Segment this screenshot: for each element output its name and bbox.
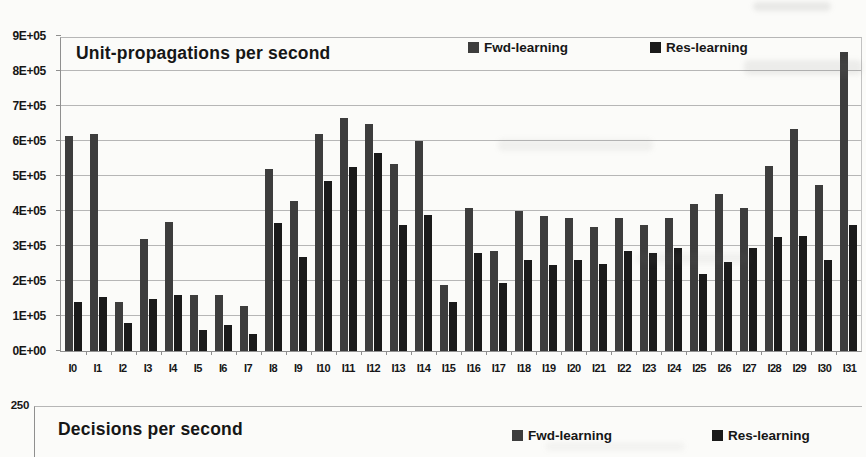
bar-res-I20 <box>574 260 582 351</box>
x-axis-label-I30: I30 <box>812 362 837 374</box>
x-axis-label-I16: I16 <box>461 362 486 374</box>
bar-fwd-I9 <box>290 201 298 352</box>
y-axis-tick <box>56 35 61 36</box>
x-axis-label-I27: I27 <box>737 362 762 374</box>
x-axis-label-I11: I11 <box>336 362 361 374</box>
x-axis-tick <box>336 351 337 355</box>
x-axis-tick <box>211 351 212 355</box>
y-axis: 0E+001E+052E+053E+054E+055E+056E+057E+05… <box>0 37 52 352</box>
x-axis-tick <box>111 351 112 355</box>
gridline <box>61 70 861 71</box>
scanned-figure-page: { "chart_data": [ { "type": "bar", "titl… <box>0 0 866 457</box>
bar-res-I23 <box>649 253 657 351</box>
x-axis-tick <box>136 351 137 355</box>
legend-label-res-learning: Res-learning <box>666 40 748 55</box>
bar-fwd-I3 <box>140 239 148 351</box>
bar-fwd-I10 <box>315 134 323 351</box>
x-axis-tick <box>361 351 362 355</box>
x-axis-tick <box>836 351 837 355</box>
bar-fwd-I27 <box>740 208 748 352</box>
x-axis-tick <box>611 351 612 355</box>
scan-artifact <box>753 2 831 11</box>
x-axis-label-I21: I21 <box>586 362 611 374</box>
bar-fwd-I8 <box>265 169 273 351</box>
y-axis-label: 2E+05 <box>0 275 46 288</box>
legend-item-res-learning-2: Res-learning <box>712 428 810 443</box>
x-axis-tick <box>686 351 687 355</box>
legend-item-fwd-learning-2: Fwd-learning <box>512 428 612 443</box>
legend-label-fwd-learning: Fwd-learning <box>484 40 568 55</box>
bar-res-I4 <box>174 295 182 351</box>
bar-res-I19 <box>549 265 557 351</box>
bar-fwd-I16 <box>465 208 473 352</box>
bar-res-I26 <box>724 262 732 351</box>
bar-res-I7 <box>249 334 257 352</box>
x-axis-label-I6: I6 <box>210 362 235 374</box>
bar-fwd-I12 <box>365 124 373 352</box>
bar-fwd-I21 <box>590 227 598 351</box>
bar-fwd-I31 <box>840 52 848 351</box>
x-axis-tick <box>436 351 437 355</box>
bar-res-I13 <box>399 225 407 351</box>
chart-title-unit-propagations: Unit-propagations per second <box>76 43 331 64</box>
x-axis-tick <box>486 351 487 355</box>
x-axis-label-I10: I10 <box>311 362 336 374</box>
legend-label-res-learning-2: Res-learning <box>728 428 810 443</box>
y-axis-label: 3E+05 <box>0 240 46 253</box>
legend-item-res-learning: Res-learning <box>650 40 748 55</box>
x-axis-label-I4: I4 <box>160 362 185 374</box>
fwd-learning-swatch-icon-2 <box>512 430 523 441</box>
bar-res-I27 <box>749 248 757 351</box>
bar-res-I8 <box>274 223 282 351</box>
bar-fwd-I20 <box>565 218 573 351</box>
bar-fwd-I18 <box>515 211 523 351</box>
bar-fwd-I5 <box>190 295 198 351</box>
x-axis-tick <box>736 351 737 355</box>
bar-fwd-I4 <box>165 222 173 352</box>
y-axis-tick <box>56 315 61 316</box>
bar-res-I9 <box>299 257 307 352</box>
x-axis-label-I1: I1 <box>85 362 110 374</box>
bar-res-I3 <box>149 299 157 352</box>
y-axis-tick <box>56 140 61 141</box>
x-axis-tick <box>636 351 637 355</box>
bar-fwd-I26 <box>715 194 723 352</box>
x-axis-tick <box>511 351 512 355</box>
decisions-y-axis-label: 250 <box>0 399 29 411</box>
bar-res-I18 <box>524 260 532 351</box>
chart-title-decisions: Decisions per second <box>58 419 243 440</box>
unit-propagations-chart-plot-area: Unit-propagations per second Fwd-learnin… <box>60 37 862 352</box>
bar-fwd-I23 <box>640 225 648 351</box>
bar-fwd-I24 <box>665 218 673 351</box>
x-axis-tick <box>186 351 187 355</box>
bar-fwd-I22 <box>615 218 623 351</box>
bar-fwd-I6 <box>215 295 223 351</box>
x-axis-tick <box>311 351 312 355</box>
x-axis-label-I22: I22 <box>611 362 636 374</box>
bar-res-I28 <box>774 237 782 351</box>
bar-fwd-I11 <box>340 118 348 351</box>
bar-res-I21 <box>599 264 607 352</box>
bar-res-I12 <box>374 153 382 351</box>
x-axis-label-I26: I26 <box>712 362 737 374</box>
x-axis-label-I17: I17 <box>486 362 511 374</box>
legend-item-fwd-learning: Fwd-learning <box>468 40 568 55</box>
y-axis-tick <box>56 70 61 71</box>
bar-res-I5 <box>199 330 207 351</box>
y-axis-label: 0E+00 <box>0 345 46 358</box>
x-axis-tick <box>711 351 712 355</box>
x-axis-label-I15: I15 <box>436 362 461 374</box>
x-axis-label-I14: I14 <box>411 362 436 374</box>
x-axis-tick <box>261 351 262 355</box>
x-axis-label-I5: I5 <box>185 362 210 374</box>
x-axis-tick <box>561 351 562 355</box>
y-axis-label: 4E+05 <box>0 205 46 218</box>
bar-res-I0 <box>74 302 82 351</box>
x-axis-label-I12: I12 <box>361 362 386 374</box>
y-axis-tick <box>56 175 61 176</box>
x-axis-tick <box>461 351 462 355</box>
bar-res-I11 <box>349 167 357 351</box>
x-axis-tick <box>586 351 587 355</box>
bar-res-I15 <box>449 302 457 351</box>
bar-fwd-I29 <box>790 129 798 351</box>
